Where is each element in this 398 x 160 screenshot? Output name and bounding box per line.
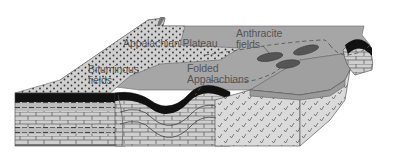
left-front-strata [15, 93, 125, 146]
label-bituminous-line2: fields [88, 74, 112, 86]
appalachian-block-diagram: Appalachian Plateau Anthracite fields Bi… [0, 0, 398, 160]
label-appalachian-plateau: Appalachian Plateau [123, 37, 218, 49]
folded-front-strata [115, 85, 230, 146]
label-anthracite-line2: fields [236, 38, 260, 50]
label-folded-line2: Appalachians [187, 73, 249, 85]
